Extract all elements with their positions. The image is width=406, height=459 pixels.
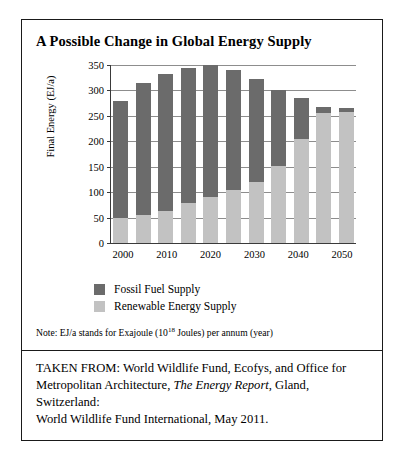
bar-2020: [203, 65, 218, 243]
bar-2045: [316, 65, 331, 243]
legend-swatch-icon: [94, 301, 105, 312]
bar-2050: [339, 65, 354, 243]
y-tick-label-0: 0: [99, 238, 104, 249]
bar-segment-renewable-2025: [226, 190, 241, 243]
y-tick-label-350: 350: [88, 60, 104, 71]
bar-2015: [181, 65, 196, 243]
y-tick-label-300: 300: [88, 85, 104, 96]
chart-legend: Fossil Fuel SupplyRenewable Energy Suppl…: [94, 283, 382, 312]
bar-segment-fossil-2040: [294, 98, 309, 139]
bar-segment-renewable-2000: [113, 218, 128, 243]
bar-2000: [113, 65, 128, 243]
y-tick-mark-0: [107, 243, 111, 244]
legend-item-renewable: Renewable Energy Supply: [94, 300, 382, 312]
legend-swatch-icon: [94, 284, 105, 295]
units-note-prefix: Note: EJ/a stands for Exajoule (10: [36, 327, 168, 338]
source-report-title: The Energy Report: [173, 378, 268, 392]
x-tick-label-2010: 2010: [156, 249, 177, 260]
x-tick-label-2030: 2030: [244, 249, 265, 260]
bar-2030: [249, 65, 264, 243]
bar-group: [111, 65, 356, 243]
legend-item-fossil: Fossil Fuel Supply: [94, 283, 382, 295]
bar-segment-fossil-2020: [203, 65, 218, 197]
plot-area: 050100150200250300350: [110, 65, 356, 244]
source-line-1: TAKEN FROM: World Wildlife Fund, Ecofys,…: [36, 360, 368, 377]
source-line-3: World Wildlife Fund International, May 2…: [36, 411, 368, 428]
chart-title: A Possible Change in Global Energy Suppl…: [36, 33, 382, 50]
source-line-2-prefix: Metropolitan Architecture,: [36, 378, 173, 392]
bar-segment-fossil-2030: [249, 79, 264, 182]
x-tick-label-2000: 2000: [112, 249, 133, 260]
y-tick-label-100: 100: [88, 187, 104, 198]
figure-frame: A Possible Change in Global Energy Suppl…: [21, 19, 383, 441]
bar-2035: [271, 65, 286, 243]
bar-segment-fossil-2000: [113, 101, 128, 218]
units-note-exponent: 18: [168, 326, 175, 334]
bar-segment-renewable-2035: [271, 166, 286, 243]
y-tick-label-150: 150: [88, 161, 104, 172]
y-tick-label-200: 200: [88, 136, 104, 147]
bar-segment-fossil-2045: [316, 107, 331, 114]
bar-segment-fossil-2035: [271, 90, 286, 165]
bar-segment-renewable-2045: [316, 113, 331, 243]
x-tick-label-2040: 2040: [288, 249, 309, 260]
bar-segment-fossil-2010: [158, 74, 173, 211]
bar-segment-renewable-2010: [158, 211, 173, 243]
x-axis-labels: 200020102020203020402050: [110, 249, 355, 267]
units-note: Note: EJ/a stands for Exajoule (1018 Jou…: [36, 326, 382, 338]
bar-2040: [294, 65, 309, 243]
bar-2005: [136, 65, 151, 243]
units-note-suffix: Joules) per annum (year): [175, 327, 273, 338]
source-line-2: Metropolitan Architecture, The Energy Re…: [36, 377, 368, 410]
bar-2025: [226, 65, 241, 243]
bar-segment-fossil-2005: [136, 83, 151, 215]
y-tick-label-50: 50: [94, 212, 105, 223]
bar-segment-fossil-2015: [181, 68, 196, 204]
bar-segment-renewable-2020: [203, 197, 218, 243]
source-divider: [22, 350, 382, 351]
bar-segment-renewable-2050: [339, 112, 354, 243]
legend-label: Renewable Energy Supply: [114, 300, 236, 312]
y-tick-label-250: 250: [88, 110, 104, 121]
bar-segment-renewable-2005: [136, 215, 151, 243]
x-tick-label-2020: 2020: [200, 249, 221, 260]
legend-label: Fossil Fuel Supply: [114, 283, 200, 295]
bar-segment-renewable-2015: [181, 203, 196, 243]
x-tick-label-2050: 2050: [332, 249, 353, 260]
bar-segment-fossil-2025: [226, 70, 241, 190]
gridline-0: [111, 243, 356, 244]
source-citation: TAKEN FROM: World Wildlife Fund, Ecofys,…: [36, 360, 368, 427]
plot-block: Final Energy (EJ/a) 05010015020025030035…: [22, 61, 382, 271]
bar-2010: [158, 65, 173, 243]
bar-segment-renewable-2040: [294, 139, 309, 243]
y-axis-title: Final Energy (EJ/a): [45, 37, 56, 197]
bar-segment-renewable-2030: [249, 182, 264, 243]
